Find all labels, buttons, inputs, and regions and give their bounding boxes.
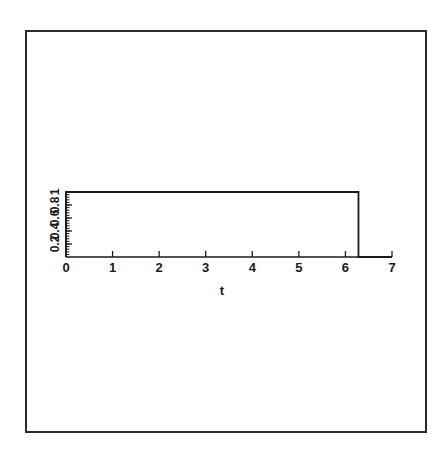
x-tick-label: 5 [295, 260, 302, 275]
y-tick-label: 1 [48, 188, 62, 195]
x-tick-labels: 01234567 [62, 260, 395, 275]
x-tick-label: 4 [249, 260, 257, 275]
x-tick-label: 6 [342, 260, 349, 275]
axis-lines [66, 192, 392, 257]
x-tick-label: 0 [62, 260, 69, 275]
x-tick-label: 2 [156, 260, 163, 275]
y-tick-labels: 0.20.40.60.81 [48, 188, 62, 252]
x-tick-label: 1 [109, 260, 116, 275]
plot-svg: 01234567 0.20.40.60.81 t [0, 0, 446, 458]
y-tick-label: 0.8 [48, 196, 62, 213]
x-axis-title: t [220, 283, 225, 298]
x-axis-ticks [66, 251, 392, 257]
pulse-curve [66, 192, 392, 257]
x-tick-label: 7 [388, 260, 395, 275]
x-tick-label: 3 [202, 260, 209, 275]
figure-canvas: 01234567 0.20.40.60.81 t [0, 0, 446, 458]
